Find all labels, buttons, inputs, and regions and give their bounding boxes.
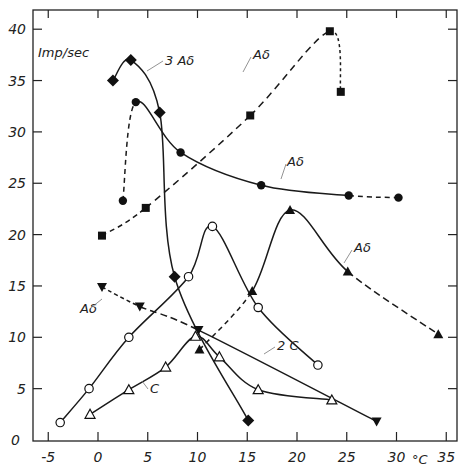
- curve-segment: [102, 208, 146, 236]
- x-tick-label: 15: [238, 449, 256, 465]
- open-circle-marker: [184, 273, 192, 281]
- filled-circle-marker: [119, 197, 127, 205]
- x-tick-label: 5: [143, 449, 152, 465]
- y-tick-label: 25: [8, 175, 26, 191]
- curve-segment: [89, 337, 129, 388]
- curve-segment: [261, 185, 349, 195]
- open-triangle-marker: [85, 409, 95, 418]
- annotation-label: Aδ: [252, 47, 270, 62]
- diamond-marker: [125, 54, 137, 66]
- curve-segment: [199, 291, 252, 350]
- annotation-label: 2 C: [277, 338, 299, 353]
- x-tick-label: 20: [288, 449, 306, 465]
- x-tick-label: 25: [338, 449, 356, 465]
- y-tick-label: 5: [17, 381, 26, 397]
- filled-circle-marker: [345, 191, 353, 199]
- curve-segment: [250, 31, 330, 115]
- open-circle-marker: [208, 222, 216, 230]
- curve-segment: [330, 31, 341, 92]
- x-tick-label: 30: [388, 449, 406, 465]
- curve-segment: [258, 308, 318, 366]
- y-tick-label: 40: [8, 21, 26, 37]
- annotation-label: 3 Aδ: [165, 53, 194, 68]
- data-curves: [60, 31, 438, 422]
- annotation-label: C: [150, 381, 160, 396]
- curve-segment: [219, 357, 258, 390]
- y-tick-label: 35: [8, 73, 26, 89]
- curve-segment: [189, 226, 213, 277]
- data-markers: [56, 27, 443, 426]
- y-tick-label: 30: [8, 124, 26, 140]
- y-tick-label: 15: [8, 278, 26, 294]
- annotation-label: Aδ: [353, 240, 371, 255]
- y-tick-label: 0: [11, 432, 20, 448]
- y-tick-label: 10: [8, 329, 26, 345]
- annotation-leader: [281, 164, 286, 179]
- filled-circle-marker: [394, 193, 402, 201]
- curve-segment: [349, 196, 399, 198]
- curve-segment: [102, 287, 140, 307]
- annotation-label: Aδ: [286, 154, 304, 169]
- annotation-label: Aδ: [79, 301, 97, 316]
- axis-tick-labels: -5051015202530350510152025303540: [8, 21, 455, 465]
- annotation-label: Imp/sec: [38, 45, 89, 60]
- curve-segment: [129, 367, 166, 390]
- curve-segment: [252, 210, 290, 291]
- filled-triangle-marker: [194, 345, 204, 354]
- x-tick-label: 10: [189, 449, 207, 465]
- x-tick-label: -5: [41, 449, 55, 465]
- y-tick-label: 20: [8, 227, 26, 243]
- annotation-leader: [147, 61, 163, 71]
- curve-segment: [258, 390, 332, 400]
- x-tick-label: 35: [437, 449, 455, 465]
- square-marker: [326, 27, 334, 35]
- open-circle-marker: [314, 361, 322, 369]
- curve-segment: [60, 389, 89, 423]
- filled-circle-marker: [257, 181, 265, 189]
- annotations: Imp/sec3 AδAδAδAδAδ2 CC°C: [38, 45, 429, 467]
- square-marker: [337, 88, 345, 96]
- filled-down-triangle-marker: [372, 418, 382, 427]
- open-circle-marker: [125, 333, 133, 341]
- curve-segment: [123, 102, 136, 201]
- filled-down-triangle-marker: [97, 283, 107, 292]
- filled-triangle-marker: [433, 329, 443, 338]
- diamond-marker: [154, 106, 166, 118]
- open-circle-marker: [85, 384, 93, 392]
- curve-segment: [90, 390, 129, 415]
- diamond-marker: [107, 75, 119, 87]
- annotation-leader: [344, 250, 352, 263]
- square-marker: [246, 111, 254, 119]
- diamond-marker: [169, 271, 181, 283]
- curve-segment: [290, 210, 348, 272]
- axis-ticks: [33, 10, 457, 441]
- filled-circle-marker: [132, 98, 140, 106]
- curve-segment: [160, 112, 175, 276]
- curve-segment: [348, 272, 439, 335]
- open-triangle-marker: [124, 385, 134, 394]
- annotation-leader: [243, 57, 251, 72]
- curve-segment: [212, 226, 258, 307]
- open-triangle-marker: [253, 385, 263, 394]
- annotation-leader: [264, 347, 275, 354]
- chart: -5051015202530350510152025303540 Imp/sec…: [0, 0, 469, 472]
- filled-circle-marker: [176, 148, 184, 156]
- square-marker: [98, 232, 106, 240]
- diamond-marker: [242, 414, 254, 426]
- open-circle-marker: [56, 418, 64, 426]
- plot-frame: [33, 10, 457, 441]
- annotation-leader: [142, 381, 148, 389]
- open-circle-marker: [254, 303, 262, 311]
- x-tick-label: 0: [94, 449, 103, 465]
- filled-down-triangle-marker: [135, 302, 145, 311]
- curve-segment: [166, 336, 196, 367]
- annotation-label: °C: [412, 452, 429, 467]
- square-marker: [142, 204, 150, 212]
